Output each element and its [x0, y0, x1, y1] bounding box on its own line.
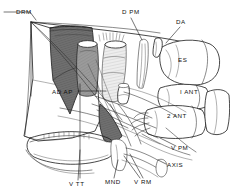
- label-mnd: MND: [105, 178, 121, 185]
- figure-canvas: DRM D PM DA ES AD AP I ANT 2 ANT V PM AX…: [0, 0, 230, 192]
- label-es: ES: [178, 56, 187, 63]
- label-drm: DRM: [16, 8, 32, 15]
- vertebra-right-lateral: [205, 90, 230, 135]
- label-i-ant: I ANT: [180, 88, 198, 95]
- label-v-tt: V TT: [69, 180, 85, 187]
- label-axis: AXIS: [167, 161, 183, 168]
- center-capsule: [118, 83, 130, 104]
- label-v-rm: V RM: [134, 178, 152, 185]
- vertebra-es: [160, 40, 220, 85]
- label-da: DA: [176, 18, 186, 25]
- label-dpm: D PM: [122, 8, 140, 15]
- vertebra-2-ant: [144, 106, 206, 139]
- label-v-pm: V PM: [171, 144, 188, 151]
- anatomical-figure: DRM D PM DA ES AD AP I ANT 2 ANT V PM AX…: [0, 0, 230, 192]
- label-2-ant: 2 ANT: [167, 112, 187, 119]
- label-ad-ap: AD AP: [52, 88, 73, 95]
